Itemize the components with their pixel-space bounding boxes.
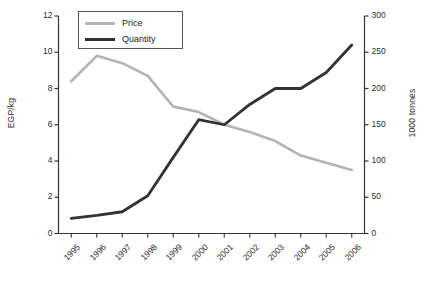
right-tick-label: 200: [372, 83, 398, 93]
chart-legend: Price Quantity: [78, 11, 183, 49]
right-tick-label: 250: [372, 46, 398, 56]
legend-swatch-price-icon: [85, 22, 115, 25]
left-tick-label: 4: [31, 155, 53, 165]
line-chart: EGP/kg 1000 tonnes 024681012 05010015020…: [0, 0, 432, 285]
left-tick-label: 2: [31, 191, 53, 201]
series-line-price: [71, 56, 352, 170]
y-axis-left-title: EGP/kg: [6, 83, 16, 143]
x-axis-ticks: [71, 234, 352, 238]
left-tick-label: 10: [31, 46, 53, 56]
legend-swatch-quantity-icon: [85, 38, 115, 41]
legend-item-quantity: Quantity: [85, 32, 156, 46]
series-line-quantity: [71, 45, 352, 218]
left-tick-label: 0: [31, 228, 53, 238]
legend-label-quantity: Quantity: [122, 34, 156, 44]
legend-item-price: Price: [85, 16, 143, 30]
plot-canvas: [0, 0, 432, 285]
right-tick-label: 150: [372, 119, 398, 129]
right-tick-label: 100: [372, 155, 398, 165]
left-tick-label: 6: [31, 119, 53, 129]
right-tick-label: 300: [372, 10, 398, 20]
right-tick-label: 50: [372, 191, 398, 201]
right-tick-label: 0: [372, 228, 398, 238]
y-axis-right-title: 1000 tonnes: [407, 73, 417, 153]
legend-label-price: Price: [122, 18, 143, 28]
left-tick-label: 8: [31, 83, 53, 93]
left-tick-label: 12: [31, 10, 53, 20]
